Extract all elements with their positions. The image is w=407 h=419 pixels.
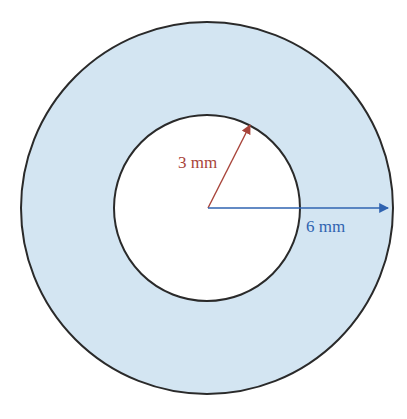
annulus-diagram: 3 mm 6 mm (0, 0, 407, 419)
inner-radius-label: 3 mm (178, 153, 217, 172)
outer-radius-label: 6 mm (306, 217, 345, 236)
